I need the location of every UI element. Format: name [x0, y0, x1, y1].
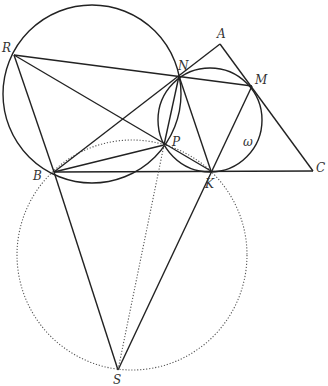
point-label-C: C	[316, 161, 325, 175]
segment-NK	[179, 76, 211, 171]
point-label-N: N	[177, 59, 189, 73]
point-label-M: M	[254, 73, 268, 87]
circles	[3, 5, 262, 370]
point-labels: AMNRPBKCS	[1, 27, 325, 386]
segment-BS	[54, 172, 118, 370]
point-label-K: K	[204, 177, 215, 191]
dotted-circle	[17, 140, 247, 370]
geometry-diagram: AMNRPBKCS ω	[0, 0, 328, 386]
omega-label: ω	[243, 135, 253, 149]
segments	[14, 44, 313, 370]
point-label-B: B	[32, 169, 42, 183]
point-label-R: R	[1, 41, 11, 55]
segment-PS	[118, 145, 164, 370]
point-label-P: P	[171, 135, 181, 149]
point-label-A: A	[216, 27, 226, 41]
segment-AC	[220, 44, 313, 171]
segment-RM	[14, 55, 252, 86]
point-label-S: S	[113, 373, 121, 386]
segment-RB	[14, 55, 54, 172]
omega-circle	[158, 68, 262, 172]
segment-BC	[54, 171, 313, 172]
